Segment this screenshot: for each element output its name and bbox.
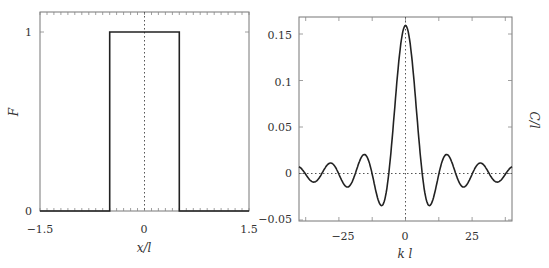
right-plot: 0.15 0.1 0.05 0 −0.05 −25 0 25 k l C/l: [258, 17, 541, 261]
left-ytick-0: 0: [25, 205, 32, 218]
right-sinc-curve: [299, 26, 512, 206]
right-ytick-015: 0.15: [268, 29, 293, 42]
left-xtick-zero: 0: [141, 223, 148, 236]
right-xtick-0: 0: [402, 230, 409, 243]
right-xtick-neg25: −25: [331, 230, 354, 243]
right-ytick-005: 0.05: [268, 121, 293, 134]
left-plot: 1 0 −1.5 0 1.5 x/l F: [7, 12, 258, 255]
right-ylabel: C/l: [527, 111, 541, 128]
right-ytick-01: 0.1: [275, 76, 293, 89]
figure: 1 0 −1.5 0 1.5 x/l F 0.15 0.1 0.05 0 −0.…: [0, 0, 549, 268]
right-ytick-0: 0: [285, 167, 292, 180]
right-xtick-25: 25: [465, 230, 479, 243]
right-ytick-neg005: −0.05: [258, 213, 292, 226]
left-ylabel: F: [7, 107, 21, 117]
left-xtick-pos: 1.5: [240, 223, 258, 236]
left-xtick-neg: −1.5: [27, 223, 54, 236]
left-xlabel: x/l: [137, 241, 152, 255]
right-xlabel: k l: [398, 247, 413, 261]
left-ytick-1: 1: [25, 26, 32, 39]
